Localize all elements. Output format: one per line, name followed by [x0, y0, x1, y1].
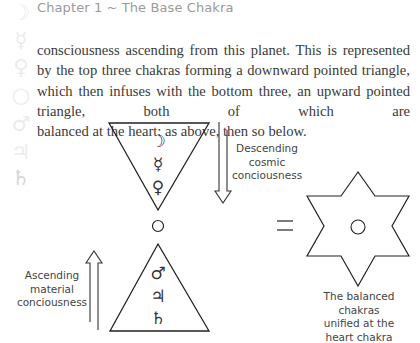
star-caption: The balanced chakras unified at the hear…: [303, 290, 415, 343]
star-caption-line: heart chakra: [303, 331, 415, 343]
descending-arrow-icon: [215, 122, 231, 203]
descending-label-line: cosmic: [232, 156, 302, 170]
jupiter-glyph: ♃: [150, 286, 165, 306]
moon-glyph: ☽: [150, 131, 165, 151]
mercury-glyph: ☿: [153, 154, 163, 174]
descending-label-line: Descending: [232, 142, 302, 156]
star-caption-line: The balanced chakras: [303, 290, 415, 317]
star-heart-circle: [351, 220, 365, 234]
ascending-label: Ascending material conciousness: [16, 269, 88, 310]
venus-glyph: ♀: [152, 177, 164, 197]
hexagram-star: [307, 172, 409, 286]
star-caption-line: unified at the: [303, 317, 415, 331]
saturn-glyph: ♄: [150, 308, 165, 328]
heart-sun-circle: [153, 221, 164, 232]
descending-label-line: conciousness: [232, 169, 302, 183]
descending-label: Descending cosmic conciousness: [232, 142, 302, 183]
ascending-label-line: conciousness: [16, 296, 88, 310]
ascending-label-line: material: [16, 283, 88, 297]
ascending-label-line: Ascending: [16, 269, 88, 283]
mars-glyph: ♂: [150, 263, 165, 283]
ascending-arrow-icon: [86, 251, 102, 330]
